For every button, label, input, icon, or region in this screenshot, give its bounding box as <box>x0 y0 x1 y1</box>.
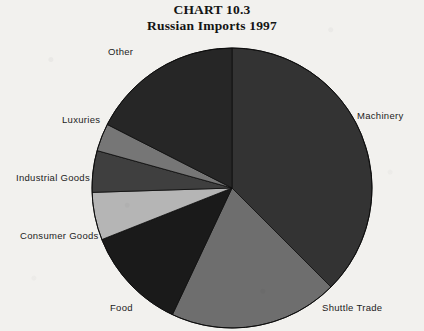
pie-label-other: Other <box>108 46 133 57</box>
pie-label-industrial-goods: Industrial Goods <box>16 172 90 183</box>
chart-title-block: CHART 10.3 Russian Imports 1997 <box>0 2 424 34</box>
chart-page: CHART 10.3 Russian Imports 1997 Other Lu… <box>0 0 424 331</box>
pie-label-shuttle-trade: Shuttle Trade <box>322 302 382 313</box>
chart-title-line-2: Russian Imports 1997 <box>0 18 424 34</box>
pie-chart-svg <box>0 0 424 331</box>
chart-title-line-1: CHART 10.3 <box>0 2 424 18</box>
pie-label-machinery: Machinery <box>357 110 404 121</box>
pie-label-food: Food <box>110 302 133 313</box>
pie-label-consumer-goods: Consumer Goods <box>20 230 99 241</box>
pie-slice-group <box>92 48 372 328</box>
pie-label-luxuries: Luxuries <box>62 114 100 125</box>
pie-chart <box>0 0 424 331</box>
